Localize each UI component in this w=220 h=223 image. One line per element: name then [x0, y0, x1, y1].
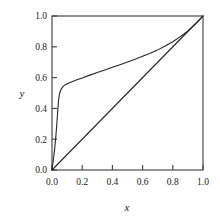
y-axis-title: y — [19, 87, 25, 99]
x-tick-label-4: 0.8 — [167, 177, 179, 187]
y-tick-label-3: 0.6 — [35, 73, 47, 83]
y-tick-label-2: 0.4 — [35, 104, 47, 114]
x-tick-label-5: 1.0 — [197, 177, 209, 187]
x-tick-label-2: 0.4 — [106, 177, 118, 187]
y-tick-label-5: 1.0 — [35, 11, 47, 21]
y-tick-label-1: 0.2 — [35, 135, 47, 145]
x-tick-label-0: 0.0 — [46, 177, 58, 187]
y-tick-label-4: 0.8 — [35, 42, 47, 52]
x-tick-label-3: 0.6 — [137, 177, 149, 187]
x-tick-label-1: 0.2 — [76, 177, 88, 187]
y-tick-label-0: 0.0 — [35, 165, 47, 175]
x-axis-title: x — [124, 201, 130, 213]
chart-figure: 0.0 0.2 0.4 0.6 0.8 1.0 0.0 0.2 0.4 0.6 … — [0, 0, 220, 223]
